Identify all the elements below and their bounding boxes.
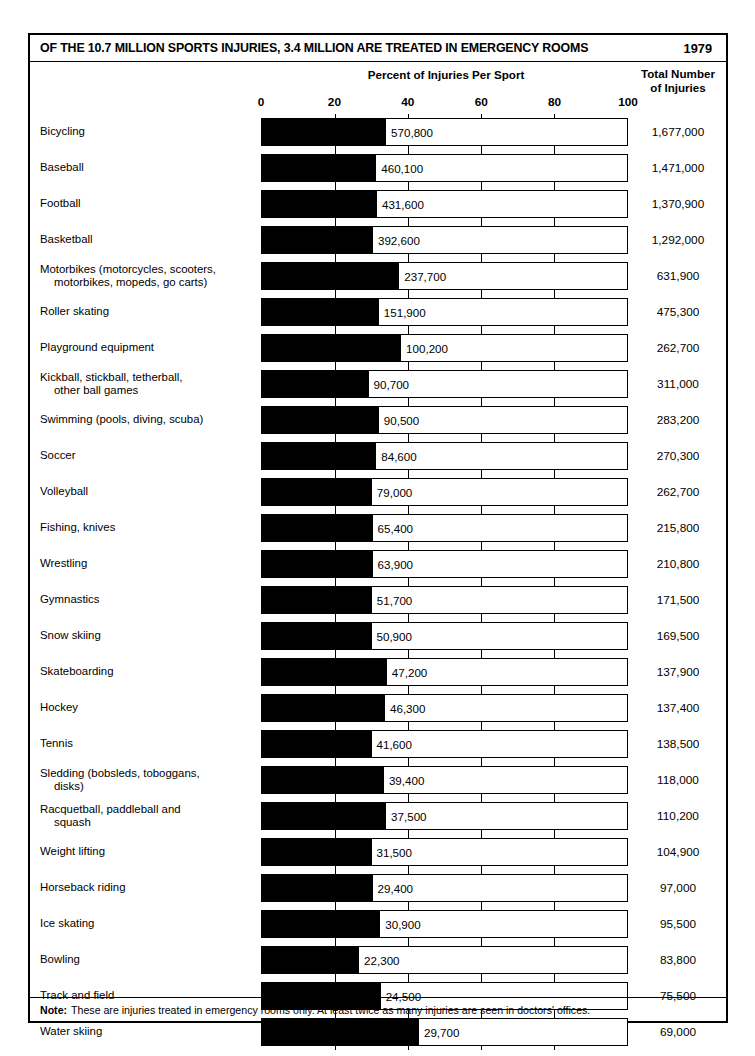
bar-fill bbox=[262, 263, 399, 289]
gridline-tick bbox=[335, 654, 336, 659]
table-row: Snow skiing50,900169,500 bbox=[30, 618, 726, 654]
bar-value-label: 39,400 bbox=[384, 774, 424, 787]
row-label-line1: Bicycling bbox=[40, 125, 85, 137]
gridline-tick bbox=[481, 402, 482, 407]
total-injuries-value: 262,700 bbox=[628, 485, 728, 499]
bar-track: 79,000 bbox=[261, 478, 628, 506]
gridline-tick bbox=[481, 978, 482, 983]
bar-fill bbox=[262, 227, 373, 253]
gridline-tick bbox=[408, 258, 409, 263]
page-title: OF THE 10.7 MILLION SPORTS INJURIES, 3.4… bbox=[40, 41, 684, 55]
gridline-tick bbox=[408, 1045, 409, 1050]
gridline-tick bbox=[335, 258, 336, 263]
gridline-tick bbox=[554, 510, 555, 515]
bar-track: 30,900 bbox=[261, 910, 628, 938]
gridline-tick bbox=[335, 762, 336, 767]
gridline-tick bbox=[335, 294, 336, 299]
gridline-tick bbox=[481, 258, 482, 263]
gridline-tick bbox=[335, 942, 336, 947]
bar-value-label: 29,400 bbox=[373, 882, 413, 895]
bar-track: 90,700 bbox=[261, 370, 628, 398]
row-label: Bicycling bbox=[40, 125, 252, 138]
gridline-tick bbox=[408, 402, 409, 407]
bar-fill bbox=[262, 371, 369, 397]
table-row: Motorbikes (motorcycles, scooters,motorb… bbox=[30, 258, 726, 294]
gridline-tick bbox=[554, 186, 555, 191]
row-label-line1: Fishing, knives bbox=[40, 521, 115, 533]
bar-track: 50,900 bbox=[261, 622, 628, 650]
table-row: Roller skating151,900475,300 bbox=[30, 294, 726, 330]
total-injuries-value: 69,000 bbox=[628, 1025, 728, 1039]
chart-figure: OF THE 10.7 MILLION SPORTS INJURIES, 3.4… bbox=[28, 33, 728, 1023]
bar-fill bbox=[262, 767, 384, 793]
gridline-tick bbox=[335, 510, 336, 515]
row-label-line1: Sledding (bobsleds, toboggans, bbox=[40, 767, 200, 779]
gridline-tick bbox=[554, 834, 555, 839]
bar-track: 100,200 bbox=[261, 334, 628, 362]
footnote-text: These are injuries treated in emergency … bbox=[71, 1004, 590, 1016]
gridline-tick bbox=[408, 726, 409, 731]
gridline-tick bbox=[335, 618, 336, 623]
table-row: Football431,6001,370,900 bbox=[30, 186, 726, 222]
gridline-tick bbox=[554, 330, 555, 335]
bar-track: 37,500 bbox=[261, 802, 628, 830]
gridline-tick bbox=[481, 618, 482, 623]
bar-track: 46,300 bbox=[261, 694, 628, 722]
gridline-tick bbox=[481, 510, 482, 515]
row-label-line1: Baseball bbox=[40, 161, 84, 173]
gridline-tick bbox=[554, 942, 555, 947]
gridline-tick bbox=[408, 798, 409, 803]
gridline-tick bbox=[554, 762, 555, 767]
row-label-line1: Horseback riding bbox=[40, 881, 125, 893]
gridline-tick bbox=[335, 222, 336, 227]
bar-value-label: 65,400 bbox=[373, 522, 413, 535]
row-label: Bowling bbox=[40, 953, 252, 966]
gridline-tick bbox=[481, 690, 482, 695]
row-label-line2: squash bbox=[40, 816, 252, 829]
gridline-tick bbox=[481, 798, 482, 803]
gridline-tick bbox=[481, 294, 482, 299]
bar-fill bbox=[262, 407, 379, 433]
gridline-tick bbox=[554, 978, 555, 983]
gridline-tick bbox=[481, 762, 482, 767]
bar-fill bbox=[262, 479, 372, 505]
bar-value-label: 31,500 bbox=[372, 846, 412, 859]
total-header-line1: Total Number bbox=[626, 67, 730, 81]
row-label-line1: Football bbox=[40, 197, 81, 209]
total-injuries-value: 137,400 bbox=[628, 701, 728, 715]
table-row: Gymnastics51,700171,500 bbox=[30, 582, 726, 618]
gridline-tick bbox=[335, 150, 336, 155]
bar-track: 460,100 bbox=[261, 154, 628, 182]
bar-value-label: 392,600 bbox=[373, 234, 420, 247]
bar-track: 84,600 bbox=[261, 442, 628, 470]
total-column-header: Total Number of Injuries bbox=[626, 67, 730, 95]
table-row: Soccer84,600270,300 bbox=[30, 438, 726, 474]
row-label: Ice skating bbox=[40, 917, 252, 930]
gridline-tick bbox=[481, 834, 482, 839]
gridline-tick bbox=[554, 798, 555, 803]
gridline-tick bbox=[335, 906, 336, 911]
total-injuries-value: 210,800 bbox=[628, 557, 728, 571]
bar-value-label: 46,300 bbox=[385, 702, 425, 715]
bar-track: 41,600 bbox=[261, 730, 628, 758]
row-label: Roller skating bbox=[40, 305, 252, 318]
total-header-line2: of Injuries bbox=[626, 81, 730, 95]
bar-fill bbox=[262, 839, 372, 865]
gridline-tick bbox=[481, 726, 482, 731]
bar-fill bbox=[262, 803, 386, 829]
gridline-tick bbox=[335, 474, 336, 479]
gridline-tick bbox=[481, 186, 482, 191]
bar-track: 29,400 bbox=[261, 874, 628, 902]
bar-track: 65,400 bbox=[261, 514, 628, 542]
gridline-tick bbox=[554, 402, 555, 407]
total-injuries-value: 137,900 bbox=[628, 665, 728, 679]
table-row: Sledding (bobsleds, toboggans,disks)39,4… bbox=[30, 762, 726, 798]
gridline-tick bbox=[335, 186, 336, 191]
row-label: Football bbox=[40, 197, 252, 210]
gridline-tick bbox=[554, 870, 555, 875]
gridline-tick bbox=[481, 474, 482, 479]
total-injuries-value: 1,292,000 bbox=[628, 233, 728, 247]
gridline-tick bbox=[408, 654, 409, 659]
gridline-tick bbox=[335, 726, 336, 731]
bar-value-label: 79,000 bbox=[372, 486, 412, 499]
